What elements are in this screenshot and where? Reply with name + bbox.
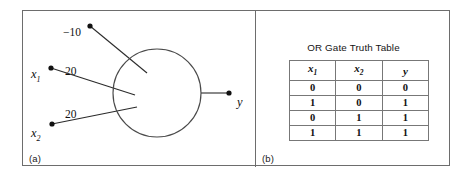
bias-edge-line (90, 26, 147, 73)
figure-frame: −10 x1 x2 20 20 y (a) OR Gate Truth Tabl… (22, 10, 450, 166)
bias-node-dot (87, 23, 92, 28)
column-header-x1: x1 (290, 61, 336, 81)
weight2-label: 20 (65, 109, 77, 121)
cell-x1: 1 (290, 126, 336, 141)
input2-label: x2 (31, 127, 41, 143)
cell-x2: 0 (336, 96, 382, 111)
cell-y: 1 (382, 111, 428, 126)
cell-y: 1 (382, 96, 428, 111)
output-node-dot (226, 90, 231, 95)
panel-a-caption: (a) (29, 153, 41, 164)
cell-y: 0 (382, 81, 428, 96)
truth-table-head: x1 x2 y (290, 61, 429, 81)
table-row: 0 0 0 (290, 81, 429, 96)
input1-node-dot (48, 65, 53, 70)
column-header-y: y (382, 61, 428, 81)
weight1-label: 20 (65, 66, 77, 78)
column-header-y-text: y (403, 65, 408, 77)
truth-table-body: 0 0 0 1 0 1 0 1 1 1 1 1 (290, 81, 429, 141)
cell-x2: 1 (336, 111, 382, 126)
output-label: y (237, 96, 243, 109)
neuron-circle (113, 49, 201, 137)
perceptron-diagram-svg (23, 11, 255, 167)
cell-x1: 0 (290, 81, 336, 96)
cell-x1: 1 (290, 96, 336, 111)
panel-b-truth-table: OR Gate Truth Table x1 x2 y 0 0 0 1 0 (256, 11, 451, 167)
table-row: 0 1 1 (290, 111, 429, 126)
panel-a-perceptron-diagram: −10 x1 x2 20 20 y (a) (23, 11, 255, 167)
input2-label-subscript: 2 (37, 134, 41, 143)
bias-weight-label: −10 (63, 27, 81, 39)
input1-label-subscript: 1 (37, 75, 41, 84)
input1-edge-line (51, 68, 135, 95)
truth-table: x1 x2 y 0 0 0 1 0 1 0 1 (289, 60, 429, 141)
input2-node-dot (49, 121, 54, 126)
panel-b-caption: (b) (262, 153, 274, 164)
cell-y: 1 (382, 126, 428, 141)
column-header-x2: x2 (336, 61, 382, 81)
cell-x2: 1 (336, 126, 382, 141)
column-header-x1-subscript: 1 (314, 68, 318, 77)
table-row: 1 1 1 (290, 126, 429, 141)
cell-x1: 0 (290, 111, 336, 126)
table-header-row: x1 x2 y (290, 61, 429, 81)
column-header-x2-subscript: 2 (360, 68, 364, 77)
table-row: 1 0 1 (290, 96, 429, 111)
cell-x2: 0 (336, 81, 382, 96)
input1-label: x1 (31, 68, 41, 84)
truth-table-title: OR Gate Truth Table (256, 42, 451, 53)
